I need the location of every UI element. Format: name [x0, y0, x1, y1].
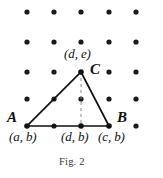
grid-dot [24, 39, 29, 44]
grid-dot [78, 39, 83, 44]
grid-dot [133, 39, 138, 44]
vertex-dot-a [24, 123, 30, 129]
grid-dot [133, 96, 138, 101]
grid-dot [24, 9, 29, 14]
grid-dot [51, 69, 56, 74]
vertex-label-a: A [7, 110, 17, 125]
grid-dot [78, 9, 83, 14]
coordinate-label-b: (c, b) [98, 130, 125, 143]
grid-dot [106, 96, 111, 101]
coordinate-label-c: (d, e) [64, 47, 91, 60]
grid-dot [106, 69, 111, 74]
figure-container: A B C (d, e) (a, b) (d, b) (c, b) Fig. 2 [0, 0, 163, 178]
figure-caption: Fig. 2 [59, 157, 85, 168]
grid-dot [106, 39, 111, 44]
vertex-dots [24, 69, 112, 129]
grid-dot [51, 39, 56, 44]
coordinate-label-foot: (d, b) [61, 130, 89, 143]
altitude-foot-dot [78, 123, 84, 129]
vertex-dot-c [78, 69, 84, 75]
grid-dot [24, 69, 29, 74]
grid-dot [133, 123, 138, 128]
grid-dot [133, 69, 138, 74]
vertex-label-c: C [90, 62, 100, 77]
grid-dot [133, 9, 138, 14]
grid-dot [106, 9, 111, 14]
triangle-abc [27, 72, 109, 126]
vertex-label-b: B [117, 110, 127, 125]
grid-dot [24, 96, 29, 101]
grid-dot [51, 9, 56, 14]
coordinate-label-a: (a, b) [9, 130, 37, 143]
geometry-figure-svg [0, 0, 163, 178]
vertex-dot-b [106, 123, 112, 129]
